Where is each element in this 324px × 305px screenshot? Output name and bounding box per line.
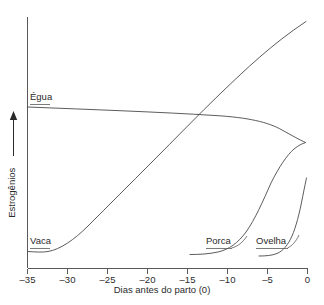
- axes-group: [28, 17, 309, 269]
- x-tick-label--10: –10: [213, 275, 243, 285]
- series-label-vaca: Vaca: [30, 236, 51, 246]
- leader-porca: [232, 236, 248, 248]
- x-tick-label--35: –35: [13, 275, 43, 285]
- x-tick-marks: [28, 269, 308, 274]
- estrogen-parturition-chart: –35 –30 –25 –20 –15 –10 –5 0 Dias antes …: [0, 0, 324, 305]
- series-label-porca: Porca: [206, 236, 231, 246]
- y-axis-title: Estrogênios: [7, 157, 17, 229]
- x-axis-title: Dias antes do parto (0): [0, 285, 324, 295]
- x-tick-label-0: 0: [293, 275, 323, 285]
- x-tick-label--5: –5: [253, 275, 283, 285]
- series-label-egua: Égua: [30, 92, 52, 102]
- curve-egua: [28, 107, 306, 143]
- x-tick-label--30: –30: [53, 275, 83, 285]
- curve-vaca: [28, 22, 306, 253]
- chart-plot-area: [0, 0, 324, 305]
- series-label-ovelha: Ovelha: [256, 236, 286, 246]
- y-axis-arrow-icon: [10, 111, 17, 156]
